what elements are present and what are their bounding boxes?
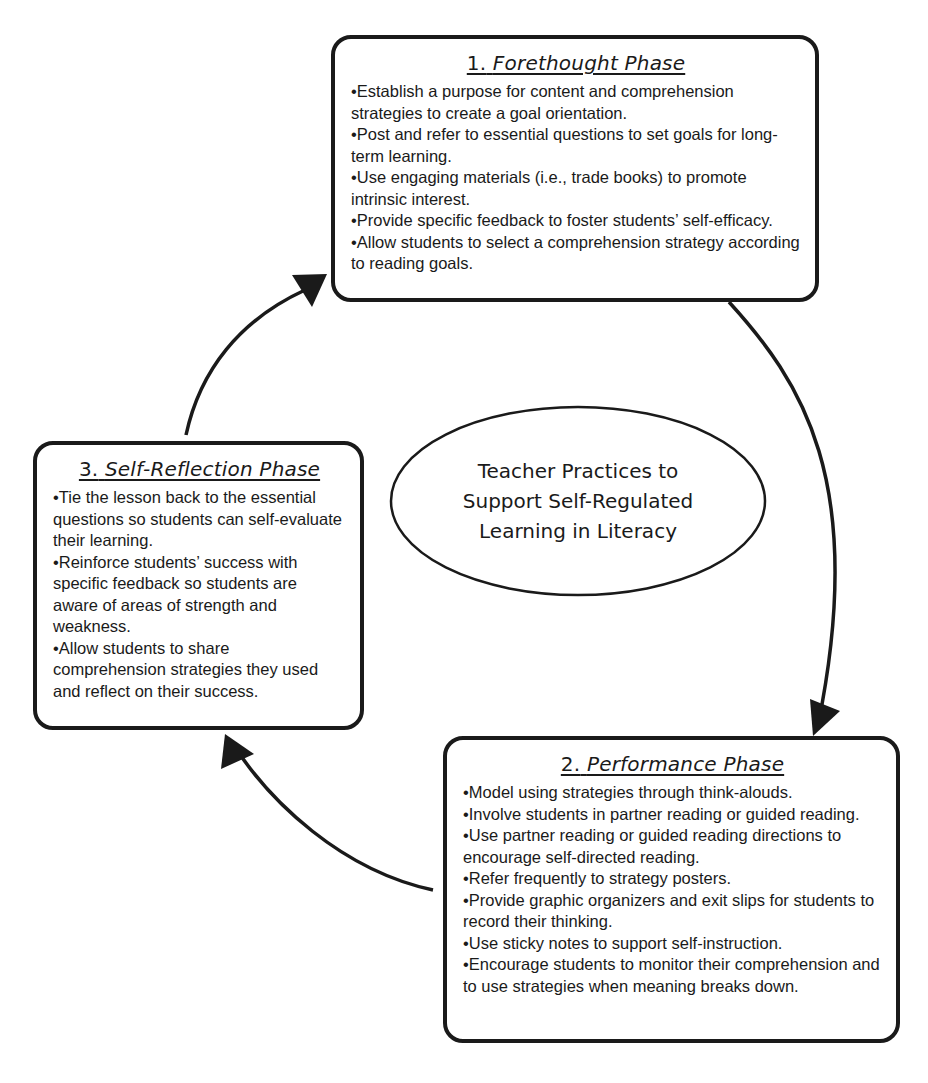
list-item: Post and refer to essential questions to… xyxy=(351,124,801,167)
phase-box-self-reflection: 3. Self-Reflection Phase Tie the lesson … xyxy=(33,441,364,730)
center-title: Teacher Practices to Support Self-Regula… xyxy=(392,408,764,594)
list-item: Tie the lesson back to the essential que… xyxy=(53,487,346,552)
list-item: Use sticky notes to support self-instruc… xyxy=(463,933,882,955)
list-item: Use engaging materials (i.e., trade book… xyxy=(351,167,801,210)
phase-title: 2. Performance Phase xyxy=(463,752,882,776)
list-item: Allow students to select a comprehension… xyxy=(351,232,801,275)
phase-items: Establish a purpose for content and comp… xyxy=(351,81,801,275)
phase-title: 1. Forethought Phase xyxy=(351,51,801,75)
list-item: Establish a purpose for content and comp… xyxy=(351,81,801,124)
arrow-reflection-to-forethought xyxy=(186,290,305,435)
list-item: Involve students in partner reading or g… xyxy=(463,804,882,826)
list-item: Encourage students to monitor their comp… xyxy=(463,954,882,997)
center-line-1: Teacher Practices to xyxy=(463,456,693,486)
list-item: Provide specific feedback to foster stud… xyxy=(351,210,801,232)
arrowhead-down-icon xyxy=(810,699,840,736)
phase-box-performance: 2. Performance Phase Model using strateg… xyxy=(443,736,900,1043)
phase-items: Model using strategies through think-alo… xyxy=(463,782,882,997)
arrowhead-up-left-icon xyxy=(221,734,254,769)
center-line-2: Support Self-Regulated xyxy=(463,486,693,516)
phase-items: Tie the lesson back to the essential que… xyxy=(53,487,346,702)
list-item: Provide graphic organizers and exit slip… xyxy=(463,890,882,933)
center-line-3: Learning in Literacy xyxy=(463,516,693,546)
arrowhead-up-right-icon xyxy=(292,274,327,307)
phase-box-forethought: 1. Forethought Phase Establish a purpose… xyxy=(331,35,819,302)
arrow-performance-to-reflection xyxy=(237,750,433,890)
list-item: Use partner reading or guided reading di… xyxy=(463,825,882,868)
list-item: Reinforce students’ success with specifi… xyxy=(53,552,346,638)
list-item: Refer frequently to strategy posters. xyxy=(463,868,882,890)
phase-title: 3. Self-Reflection Phase xyxy=(53,457,346,481)
list-item: Model using strategies through think-alo… xyxy=(463,782,882,804)
list-item: Allow students to share comprehension st… xyxy=(53,638,346,703)
